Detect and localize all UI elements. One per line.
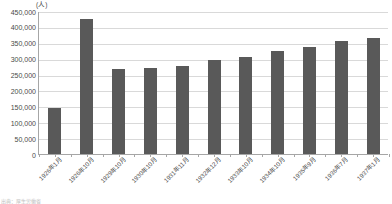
bar xyxy=(367,38,380,154)
bar-series xyxy=(39,12,388,154)
y-axis-tick-labels: 450,000400,000350,000300,000250,000200,0… xyxy=(0,12,36,155)
bar-chart: (人) 450,000400,000350,000300,000250,0002… xyxy=(0,0,392,204)
bar xyxy=(271,51,284,154)
y-axis-tick-label: 50,000 xyxy=(2,136,36,143)
bar xyxy=(144,68,157,154)
y-axis-tick-label: 250,000 xyxy=(2,72,36,79)
y-axis-unit-label: (人) xyxy=(36,1,47,9)
x-axis-tick-mark xyxy=(389,154,390,157)
bar xyxy=(335,41,348,154)
x-axis-tick-label: 1926年10月 xyxy=(59,156,96,193)
bar xyxy=(112,69,125,154)
chart-footnote: 出典：厚生労働省 xyxy=(1,198,41,204)
bar xyxy=(208,60,221,154)
bar xyxy=(80,19,93,154)
y-axis-tick-label: 100,000 xyxy=(2,120,36,127)
y-axis-tick-label: 300,000 xyxy=(2,56,36,63)
bar xyxy=(303,47,316,154)
x-axis-tick-label: 1937年1月 xyxy=(345,156,382,193)
y-axis-tick-label: 400,000 xyxy=(2,24,36,31)
y-axis-tick-label: 150,000 xyxy=(2,104,36,111)
y-axis-tick-label: 200,000 xyxy=(2,88,36,95)
y-axis-tick-label: 350,000 xyxy=(2,40,36,47)
x-axis-tick-labels: 1926年1月1926年10月1929年10月1930年10月1931年11月1… xyxy=(38,156,388,196)
y-axis-tick-label: 0 xyxy=(2,152,36,159)
y-axis-tick-label: 450,000 xyxy=(2,9,36,16)
bar xyxy=(239,57,252,154)
x-axis-tick-label: 1933年10月 xyxy=(218,156,255,193)
plot-area xyxy=(38,12,388,155)
bar xyxy=(48,108,61,154)
bar xyxy=(176,66,189,154)
